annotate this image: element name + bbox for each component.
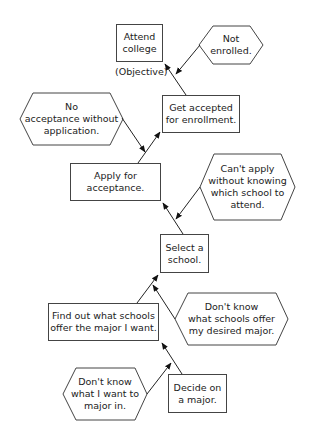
edge-get-accepted-to-attend — [165, 64, 186, 95]
edge-select-to-apply — [163, 203, 183, 234]
node-apply: Apply for acceptance. — [70, 163, 161, 201]
node-no-acceptance: No acceptance without application. — [20, 93, 123, 145]
node-no-acceptance-text: No acceptance without application. — [25, 101, 119, 137]
node-find-out: Find out what schools offer the major I … — [48, 303, 159, 341]
edge-apply-to-get-accepted — [138, 132, 160, 163]
edge-not-enrolled-to-attend — [176, 45, 200, 74]
node-find-out-text: Find out what schools offer the major I … — [50, 310, 156, 334]
objective-label: (Objective) — [115, 66, 167, 77]
node-select-school-text: Select a school. — [165, 242, 203, 266]
node-dont-know-schools-text: Don't know what schools offer my desired… — [188, 301, 275, 337]
node-not-enrolled: Not enrolled. — [199, 26, 263, 64]
node-dont-know-major-text: Don't know what I want to major in. — [71, 376, 139, 412]
edge-find-out-to-select — [137, 275, 158, 303]
node-decide-major-text: Decide on a major. — [174, 382, 222, 406]
node-cant-apply: Can't apply without knowing which school… — [200, 154, 295, 220]
node-select-school: Select a school. — [160, 234, 209, 273]
node-decide-major: Decide on a major. — [168, 374, 227, 413]
node-cant-apply-text: Can't apply without knowing which school… — [208, 163, 287, 211]
node-get-accepted: Get accepted for enrollment. — [162, 95, 240, 133]
node-attend-college-text: Attend college — [122, 31, 156, 55]
edge-decide-to-find-out — [162, 343, 182, 374]
node-dont-know-major: Don't know what I want to major in. — [63, 368, 147, 420]
edge-no-acceptance-to-apply — [122, 118, 145, 152]
node-dont-know-schools: Don't know what schools offer my desired… — [175, 293, 288, 345]
node-get-accepted-text: Get accepted for enrollment. — [166, 102, 237, 126]
node-apply-text: Apply for acceptance. — [87, 170, 145, 194]
node-not-enrolled-text: Not enrolled. — [210, 33, 252, 57]
edge-cant-apply-to-select — [176, 187, 200, 219]
node-attend-college: Attend college — [116, 24, 163, 62]
